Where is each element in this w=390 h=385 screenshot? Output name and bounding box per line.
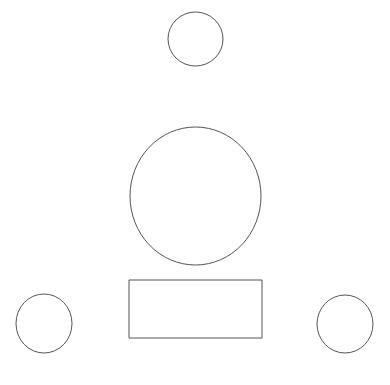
small-circle-top[interactable] xyxy=(168,12,223,66)
small-circle-bottom-right[interactable] xyxy=(317,295,373,353)
diagram-canvas xyxy=(0,0,390,385)
rectangle-bottom-center[interactable] xyxy=(129,280,262,338)
shape-canvas-svg xyxy=(0,0,390,385)
large-circle-center[interactable] xyxy=(130,127,261,265)
small-circle-bottom-left[interactable] xyxy=(16,294,72,353)
